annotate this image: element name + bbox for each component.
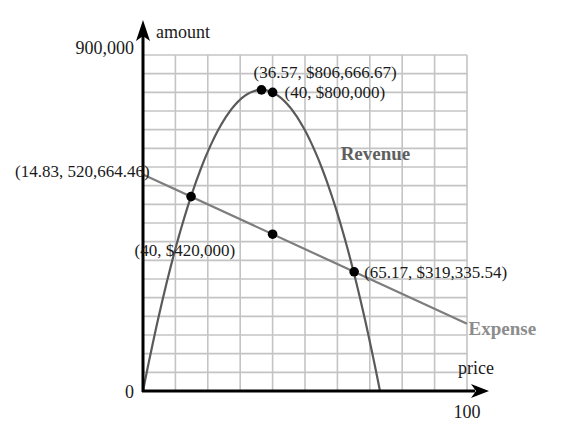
data-point-marker <box>349 267 359 277</box>
expense-label: Expense <box>469 318 537 339</box>
x-tick-label: 0 <box>125 382 134 402</box>
data-point-label: (40, $800,000) <box>285 83 386 102</box>
y-tick-label: 900,000 <box>76 38 135 58</box>
revenue-expense-chart: amount price 900,0000100 (36.57, $806,66… <box>0 0 568 437</box>
grid <box>143 55 467 391</box>
data-point-label: (36.57, $806,666.67) <box>253 63 396 82</box>
x-axis-label: price <box>458 358 494 378</box>
y-axis-label: amount <box>156 22 210 42</box>
data-point-label: (40, $420,000) <box>135 241 236 260</box>
data-point-label: (14.83, 520,664.46) <box>15 162 150 181</box>
annotated-points: (36.57, $806,666.67)(40, $800,000)(14.83… <box>15 63 507 282</box>
data-point-marker <box>268 229 278 239</box>
data-point-marker <box>268 88 278 98</box>
data-point-marker <box>186 192 196 202</box>
data-point-marker <box>257 85 267 95</box>
data-point-label: (65.17, $319,335.54) <box>364 263 507 282</box>
revenue-label: Revenue <box>341 143 411 164</box>
x-tick-label: 100 <box>454 402 481 422</box>
